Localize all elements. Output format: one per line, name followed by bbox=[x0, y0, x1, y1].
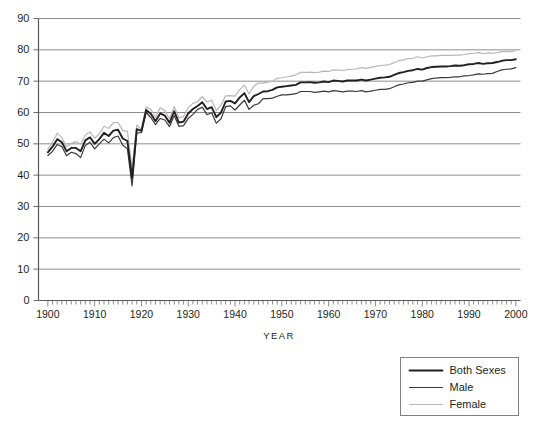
legend-label-both-sexes: Both Sexes bbox=[450, 364, 507, 376]
y-axis-tick-labels: 0102030405060708090 bbox=[17, 12, 29, 306]
x-axis-tick-labels: 1900191019201930194019501960197019801990… bbox=[36, 308, 527, 320]
y-tick-label-0: 0 bbox=[23, 294, 29, 306]
x-tick-label-1980: 1980 bbox=[411, 308, 435, 320]
x-axis-minor-ticks bbox=[48, 301, 516, 307]
series-line-both-sexes bbox=[48, 59, 516, 178]
y-tick-label-10: 10 bbox=[17, 263, 29, 275]
y-tick-label-40: 40 bbox=[17, 169, 29, 181]
y-tick-label-50: 50 bbox=[17, 137, 29, 149]
x-tick-label-1990: 1990 bbox=[457, 308, 481, 320]
x-tick-label-1960: 1960 bbox=[317, 308, 341, 320]
y-axis-tick-marks bbox=[34, 19, 39, 301]
x-tick-label-2000: 2000 bbox=[504, 308, 528, 320]
legend-label-female: Female bbox=[450, 398, 487, 410]
x-tick-label-1970: 1970 bbox=[364, 308, 388, 320]
x-tick-label-1920: 1920 bbox=[130, 308, 154, 320]
data-series-lines bbox=[48, 51, 516, 186]
series-line-female bbox=[48, 51, 516, 169]
legend-label-male: Male bbox=[450, 381, 474, 393]
x-tick-label-1940: 1940 bbox=[223, 308, 247, 320]
gridlines bbox=[39, 19, 521, 270]
y-tick-label-70: 70 bbox=[17, 75, 29, 87]
chart-container: 0102030405060708090 19001910192019301940… bbox=[0, 0, 540, 425]
x-tick-label-1930: 1930 bbox=[177, 308, 201, 320]
life-expectancy-line-chart: 0102030405060708090 19001910192019301940… bbox=[0, 0, 540, 425]
y-tick-label-30: 30 bbox=[17, 200, 29, 212]
y-tick-label-80: 80 bbox=[17, 43, 29, 55]
y-tick-label-20: 20 bbox=[17, 231, 29, 243]
series-line-male bbox=[48, 68, 516, 186]
y-tick-label-90: 90 bbox=[17, 12, 29, 24]
x-tick-label-1950: 1950 bbox=[270, 308, 294, 320]
chart-legend: Both SexesMaleFemale bbox=[401, 358, 519, 416]
y-tick-label-60: 60 bbox=[17, 106, 29, 118]
x-tick-label-1910: 1910 bbox=[83, 308, 107, 320]
x-axis-title: YEAR bbox=[263, 330, 294, 341]
x-tick-label-1900: 1900 bbox=[36, 308, 60, 320]
